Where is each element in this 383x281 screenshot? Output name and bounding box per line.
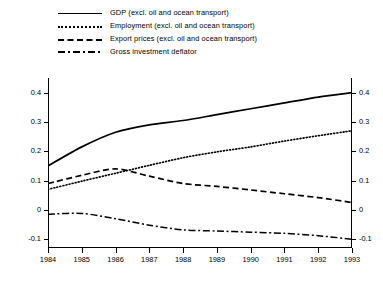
x-axis-tick <box>82 248 83 253</box>
legend-item-label: GDP (excl. oil and ocean transport) <box>110 8 229 17</box>
legend-item-label: Gross investment deflator <box>110 47 197 56</box>
series-lines <box>48 78 352 248</box>
series-line-dashdot <box>48 213 352 239</box>
chart-legend: GDP (excl. oil and ocean transport)Emplo… <box>58 6 358 58</box>
y-axis-tick-right <box>352 181 356 182</box>
legend-line-swatch-dashed <box>58 33 102 45</box>
legend-item: Export prices (excl. oil and ocean trans… <box>58 32 358 45</box>
x-axis-tick <box>217 248 218 253</box>
x-axis-tick <box>48 248 49 253</box>
x-axis-tick <box>318 248 319 253</box>
y-axis-tick-right <box>352 210 356 211</box>
x-axis-tick <box>284 248 285 253</box>
x-axis-tick-label: 1991 <box>276 256 292 264</box>
y-axis-tick-left <box>44 210 48 211</box>
y-axis-tick-left <box>44 93 48 94</box>
y-axis-tick-label-right: 0.2 <box>359 147 369 154</box>
y-axis-tick-left <box>44 181 48 182</box>
x-axis-tick-label: 1992 <box>310 256 326 264</box>
legend-line-swatch-solid <box>58 7 102 19</box>
legend-line-swatch-dashdot <box>58 46 102 58</box>
x-axis-tick-label: 1985 <box>74 256 90 264</box>
y-axis-tick-label-left: 0 <box>37 206 41 213</box>
y-axis-tick-right <box>352 151 356 152</box>
chart-figure: GDP (excl. oil and ocean transport)Emplo… <box>0 0 383 281</box>
x-axis-tick-label: 1990 <box>242 256 258 264</box>
plot-area: -0.1-0.1000.10.10.20.20.30.30.40.4198419… <box>48 78 352 248</box>
series-line-dotted <box>48 131 352 190</box>
y-axis-tick-right <box>352 93 356 94</box>
y-axis-tick-right <box>352 239 356 240</box>
y-axis-tick-label-right: 0.3 <box>359 118 369 125</box>
legend-item-label: Export prices (excl. oil and ocean trans… <box>110 34 257 43</box>
x-axis-tick-label: 1986 <box>107 256 123 264</box>
x-axis-tick <box>149 248 150 253</box>
y-axis-tick-right <box>352 122 356 123</box>
series-line-dashed <box>48 169 352 203</box>
x-axis-tick <box>251 248 252 253</box>
legend-item: GDP (excl. oil and ocean transport) <box>58 6 358 19</box>
x-axis-tick-label: 1993 <box>344 256 360 264</box>
y-axis-tick-label-left: 0.2 <box>31 147 41 154</box>
y-axis-tick-label-left: 0.3 <box>31 118 41 125</box>
y-axis-tick-label-right: 0 <box>359 206 363 213</box>
y-axis-tick-label-right: 0.1 <box>359 177 369 184</box>
x-axis-tick-label: 1988 <box>175 256 191 264</box>
y-axis-tick-label-right: -0.1 <box>359 235 372 242</box>
y-axis-tick-left <box>44 239 48 240</box>
legend-item: Gross investment deflator <box>58 45 358 58</box>
y-axis-tick-label-left: 0.4 <box>31 89 41 96</box>
legend-item: Employment (excl. oil and ocean transpor… <box>58 19 358 32</box>
legend-item-label: Employment (excl. oil and ocean transpor… <box>110 21 255 30</box>
y-axis-tick-label-right: 0.4 <box>359 89 369 96</box>
y-axis-tick-left <box>44 151 48 152</box>
x-axis-tick <box>183 248 184 253</box>
x-axis-tick <box>116 248 117 253</box>
x-axis-tick-label: 1989 <box>209 256 225 264</box>
x-axis-tick-label: 1984 <box>40 256 56 264</box>
y-axis-tick-label-left: 0.1 <box>31 177 41 184</box>
x-axis-tick <box>352 248 353 253</box>
x-axis-tick-label: 1987 <box>141 256 157 264</box>
y-axis-tick-label-left: -0.1 <box>28 235 41 242</box>
legend-line-swatch-dotted <box>58 20 102 32</box>
y-axis-tick-left <box>44 122 48 123</box>
